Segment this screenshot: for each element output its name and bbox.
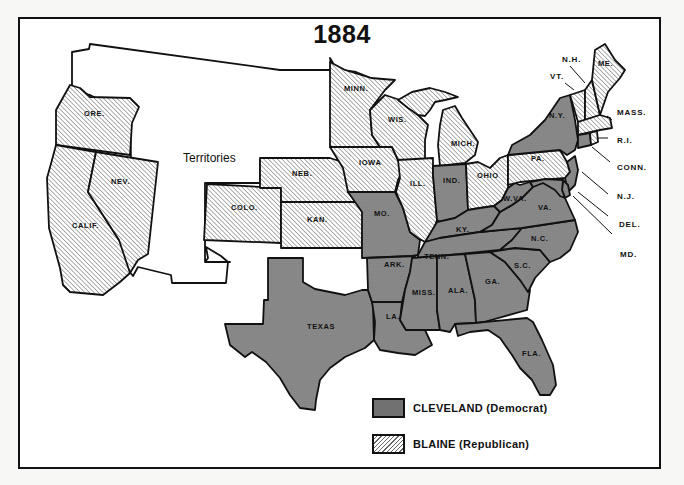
label-wva: W.VA. xyxy=(503,194,527,203)
label-ky: KY. xyxy=(456,225,469,234)
state-me xyxy=(592,44,625,115)
label-md: MD. xyxy=(620,250,637,259)
label-ill: ILL. xyxy=(410,179,426,188)
label-nh: N.H. xyxy=(562,55,581,64)
democrat-swatch xyxy=(372,398,405,418)
label-kan: KAN. xyxy=(307,215,328,224)
label-nev: NEV. xyxy=(111,177,130,186)
label-ark: ARK. xyxy=(384,260,405,269)
legend-democrat-candidate: CLEVELAND xyxy=(413,402,483,414)
state-ny xyxy=(508,95,578,155)
label-miss: MISS. xyxy=(412,288,435,297)
state-colo xyxy=(204,184,281,243)
state-conn xyxy=(578,133,591,148)
label-mass: MASS. xyxy=(617,108,646,117)
label-mich: MICH. xyxy=(451,139,475,148)
label-pa: PA. xyxy=(531,154,545,163)
territories-label: Territories xyxy=(183,151,236,165)
state-kan xyxy=(281,202,363,248)
label-neb: NEB. xyxy=(292,169,312,178)
label-ind: IND. xyxy=(443,176,460,185)
label-va: VA. xyxy=(538,203,552,212)
label-texas: TEXAS xyxy=(307,322,335,331)
label-calif: CALIF. xyxy=(72,221,99,230)
label-vt: VT. xyxy=(550,72,564,81)
label-ala: ALA. xyxy=(448,286,468,295)
state-ri xyxy=(590,131,598,145)
label-minn: MINN. xyxy=(344,84,368,93)
label-ri: R.I. xyxy=(617,136,633,145)
label-sc: S.C. xyxy=(514,261,531,270)
label-fla: FLA. xyxy=(522,349,541,358)
label-la: LA. xyxy=(386,312,400,321)
label-iowa: IOWA xyxy=(359,158,381,167)
label-wis: WIS. xyxy=(388,115,407,124)
legend-item-republican: BLAINE (Republican) xyxy=(372,434,529,454)
legend-democrat-party: (Democrat) xyxy=(486,402,547,414)
label-ohio: OHIO xyxy=(477,171,499,180)
legend-democrat-label: CLEVELAND (Democrat) xyxy=(413,402,547,414)
label-mo: MO. xyxy=(374,209,390,218)
legend-republican-candidate: BLAINE xyxy=(413,438,456,450)
label-nc: N.C. xyxy=(531,234,548,243)
label-ny: N.Y. xyxy=(549,111,565,120)
label-me: ME. xyxy=(598,59,613,68)
label-del: DEL. xyxy=(619,220,640,229)
state-texas xyxy=(225,258,374,410)
label-ga: GA. xyxy=(485,277,500,286)
state-mich xyxy=(438,106,478,166)
legend-republican-party: (Republican) xyxy=(459,438,529,450)
label-ore: ORE. xyxy=(84,109,105,118)
republican-swatch xyxy=(372,434,405,454)
label-conn: CONN. xyxy=(617,163,647,172)
label-nj: N.J. xyxy=(617,192,635,201)
legend-item-democrat: CLEVELAND (Democrat) xyxy=(372,398,547,418)
label-tenn: TENN. xyxy=(424,252,450,261)
legend-republican-label: BLAINE (Republican) xyxy=(413,438,529,450)
us-election-map: Territories ORE. CALIF. NEV. COLO. NEB. … xyxy=(0,0,684,485)
label-colo: COLO. xyxy=(231,203,258,212)
